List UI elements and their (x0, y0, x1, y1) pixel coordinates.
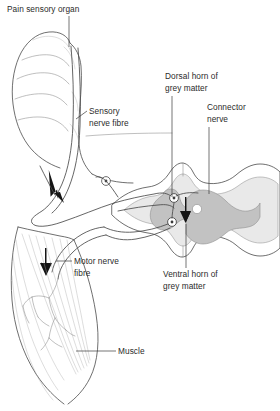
muscle-belly (11, 227, 98, 404)
dorsal-horn-label-line2: grey matter (165, 83, 208, 93)
ventral-horn-label-line1: Ventral horn of (163, 269, 218, 279)
label-dorsal-horn: Dorsal horn of grey matter (165, 71, 218, 197)
label-connector-nerve: Connector nerve (207, 102, 246, 194)
sensory-nerve-fibre-leader (76, 111, 87, 119)
label-sensory-nerve-fibre: Sensory nerve fibre (76, 106, 129, 128)
label-pain-sensory-organ: Pain sensory organ (7, 4, 80, 47)
connector-nerve-label-line2: nerve (207, 114, 228, 124)
ventral-horn-label-line2: grey matter (163, 281, 206, 291)
motor-nerve-fibre-path (40, 227, 106, 279)
central-canal-icon (192, 204, 201, 213)
label-motor-nerve-fibre: Motor nerve fibre (56, 256, 119, 278)
dorsal-horn-label-line1: Dorsal horn of (165, 71, 218, 81)
spinal-cord-cross-section (112, 163, 280, 257)
motor-nerve-fibre-label-line1: Motor nerve (74, 256, 119, 266)
sensory-nerve-fibre-label-line2: nerve fibre (89, 118, 129, 128)
reflex-arc-diagram: Pain sensory organ Sensory nerve fibre D… (0, 0, 280, 411)
sensory-nerve-fibre-path (31, 46, 114, 226)
muscle-label: Muscle (118, 346, 145, 356)
connector-nerve-label-line1: Connector (207, 102, 246, 112)
sensory-nerve-fibre-label-line1: Sensory (89, 106, 121, 116)
motor-neuron-cell-body (168, 218, 177, 227)
motor-nerve-fibre-label-line2: fibre (74, 268, 91, 278)
connector-neuron-cell-body (170, 194, 179, 203)
pain-sensory-organ-label: Pain sensory organ (7, 4, 80, 14)
